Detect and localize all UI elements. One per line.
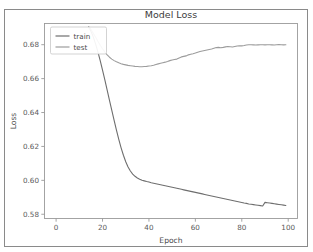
y-tick-label: 0.64 (23, 108, 39, 117)
x-tick-label: 100 (281, 223, 295, 232)
chart-screenshot: 0204060801000.580.600.620.640.660.68Mode… (0, 0, 313, 252)
y-tick-label: 0.68 (23, 40, 39, 49)
x-tick-label: 80 (237, 223, 247, 232)
y-tick-label: 0.62 (23, 142, 39, 151)
x-tick-label: 20 (98, 223, 108, 232)
y-tick-label: 0.58 (23, 210, 39, 219)
x-tick-label: 60 (191, 223, 201, 232)
x-tick-label: 0 (54, 223, 59, 232)
model-loss-chart: 0204060801000.580.600.620.640.660.68Mode… (0, 0, 313, 252)
x-axis-label: Epoch (159, 236, 182, 245)
chart-title: Model Loss (145, 9, 197, 20)
y-axis-label: Loss (9, 113, 18, 130)
y-tick-label: 0.66 (23, 74, 39, 83)
y-tick-label: 0.60 (23, 176, 39, 185)
legend-label-train: train (74, 32, 91, 41)
legend-label-test: test (74, 43, 88, 52)
x-tick-label: 40 (144, 223, 154, 232)
